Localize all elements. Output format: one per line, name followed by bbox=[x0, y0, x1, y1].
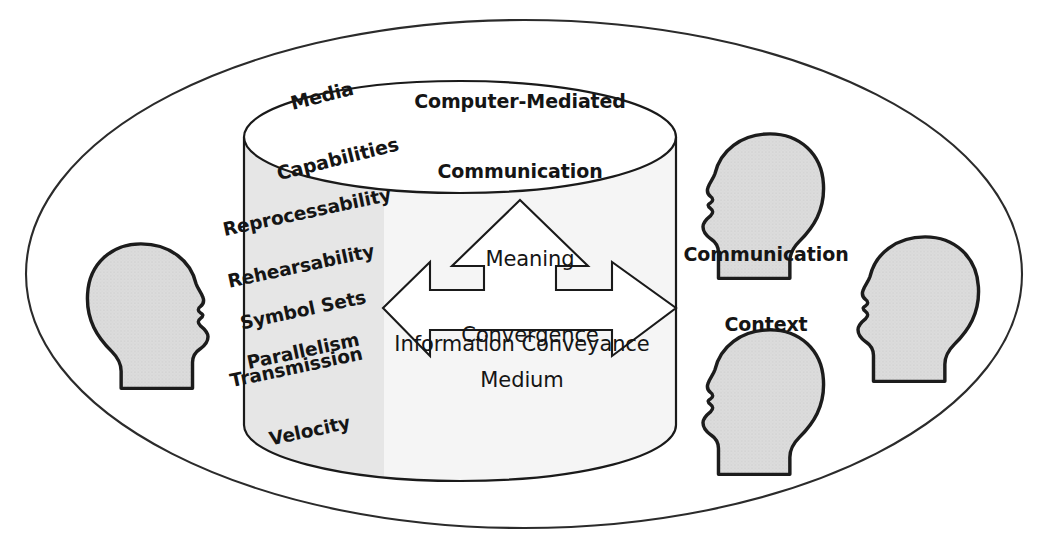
medium-label: Medium bbox=[422, 321, 622, 441]
communication-context-label-line-2: Context bbox=[661, 313, 871, 336]
person-far-right-head-icon bbox=[858, 237, 979, 381]
diagram-canvas: Media Capabilities Computer-Mediated Com… bbox=[0, 0, 1048, 558]
communication-context-label: Communication Context bbox=[661, 197, 871, 382]
media-capability-label: Velocity bbox=[205, 399, 415, 464]
communication-context-label-line-1: Communication bbox=[661, 244, 871, 267]
medium-label-text: Medium bbox=[422, 369, 622, 393]
meaning-convergence-label-line-1: Meaning bbox=[415, 248, 645, 273]
diagram-title-line-1: Computer-Mediated bbox=[370, 91, 670, 114]
